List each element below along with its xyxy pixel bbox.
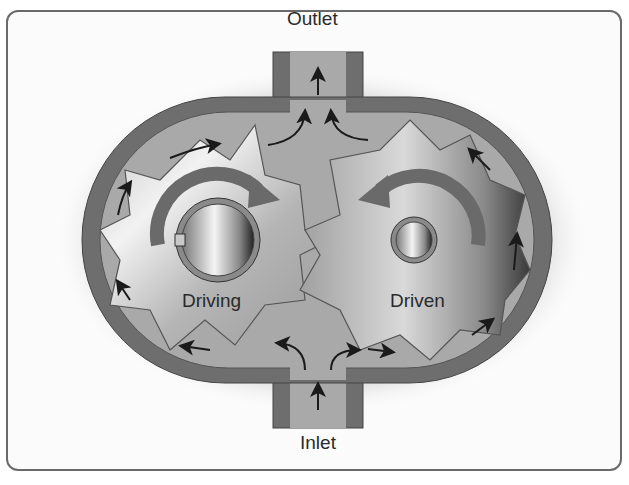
gear-pump-diagram [0, 0, 629, 485]
driving-gear-label: Driving [182, 290, 241, 312]
driving-shaft-key [175, 234, 185, 246]
inlet-label: Inlet [300, 432, 336, 454]
driven-shaft [396, 222, 432, 258]
driven-gear-label: Driven [390, 290, 445, 312]
outlet-label: Outlet [287, 8, 338, 30]
driving-shaft [182, 204, 254, 276]
